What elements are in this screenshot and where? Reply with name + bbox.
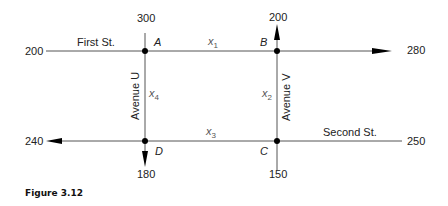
flow-avenue-v-in-bottom: 150: [269, 169, 287, 180]
flow-second-out-left: 240: [25, 136, 43, 147]
network-diagram: [0, 0, 448, 206]
figure-caption: Figure 3.12: [25, 188, 83, 198]
first-street-arrow-right: [372, 48, 392, 54]
node-c-dot: [274, 138, 280, 144]
node-a-dot: [142, 48, 148, 54]
flow-first-out-right: 280: [407, 45, 425, 56]
node-c-label: C: [260, 146, 268, 157]
node-d-dot: [142, 138, 148, 144]
avenue-v-arrow-up: [274, 24, 280, 40]
second-street-arrow-left: [46, 138, 62, 144]
variable-x3: x3: [206, 126, 216, 140]
variable-x1: x1: [208, 36, 218, 50]
variable-x4: x4: [149, 88, 159, 102]
flow-first-in-left: 200: [25, 46, 43, 57]
node-b-dot: [274, 48, 280, 54]
avenue-u-label: Avenue U: [130, 72, 141, 120]
second-street-label: Second St.: [323, 127, 377, 138]
flow-second-in-right: 250: [407, 136, 425, 147]
avenue-u-arrow-down: [142, 151, 148, 167]
first-street-label: First St.: [77, 37, 115, 48]
node-d-label: D: [155, 146, 163, 157]
flow-avenue-u-out-bottom: 180: [137, 169, 155, 180]
node-a-label: A: [154, 37, 161, 48]
variable-x2: x2: [262, 88, 272, 102]
flow-avenue-u-in-top: 300: [137, 13, 155, 24]
flow-avenue-v-out-top: 200: [269, 12, 287, 23]
node-b-label: B: [260, 37, 267, 48]
avenue-v-label: Avenue V: [281, 73, 292, 121]
